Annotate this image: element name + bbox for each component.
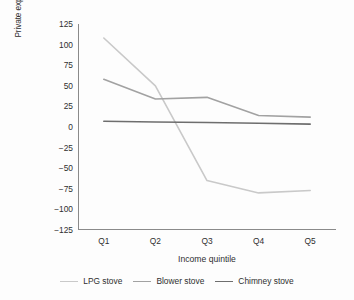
legend-item-chimney-stove[interactable]: Chimney stove bbox=[215, 276, 293, 286]
legend-item-blower-stove[interactable]: Blower stove bbox=[133, 276, 204, 286]
series-line-chimney-stove bbox=[104, 121, 310, 124]
y-axis-tick-label: 125 bbox=[59, 19, 73, 29]
y-axis-tick-label: 100 bbox=[59, 40, 73, 50]
legend-swatch bbox=[60, 281, 78, 282]
x-axis-label: Income quintile bbox=[78, 254, 336, 264]
y-axis-tick-label: −50 bbox=[59, 163, 73, 173]
y-axis-tick-label: 50 bbox=[64, 81, 73, 91]
x-axis-tick-label: Q1 bbox=[98, 236, 109, 246]
y-axis-tick-label: −75 bbox=[59, 184, 73, 194]
x-axis-tick-label: Q4 bbox=[253, 236, 264, 246]
y-axis-label: Private expenditures averted in U.S. dol… bbox=[8, 0, 30, 40]
plot-svg bbox=[78, 24, 336, 230]
legend-label: Blower stove bbox=[156, 276, 204, 286]
y-axis-tick-label: 0 bbox=[68, 122, 73, 132]
x-axis-tick-label: Q5 bbox=[305, 236, 316, 246]
chart-legend: LPG stoveBlower stoveChimney stove bbox=[0, 276, 354, 286]
y-axis-tick-label: 25 bbox=[64, 101, 73, 111]
y-axis-tick-label: −125 bbox=[54, 225, 73, 235]
series-line-blower-stove bbox=[104, 79, 310, 117]
x-axis-tick-label: Q2 bbox=[150, 236, 161, 246]
chart-figure: Private expenditures averted in U.S. dol… bbox=[0, 0, 354, 300]
legend-swatch bbox=[215, 281, 233, 282]
legend-label: LPG stove bbox=[83, 276, 122, 286]
y-axis-tick-label: −100 bbox=[54, 204, 73, 214]
plot-area: 1251007550250−25−50−75−100−125Q1Q2Q3Q4Q5 bbox=[78, 24, 336, 230]
y-axis-tick-label: −25 bbox=[59, 143, 73, 153]
legend-item-lpg-stove[interactable]: LPG stove bbox=[60, 276, 122, 286]
x-axis-tick-label: Q3 bbox=[201, 236, 212, 246]
y-axis-tick-label: 75 bbox=[64, 60, 73, 70]
legend-label: Chimney stove bbox=[238, 276, 293, 286]
legend-swatch bbox=[133, 281, 151, 282]
